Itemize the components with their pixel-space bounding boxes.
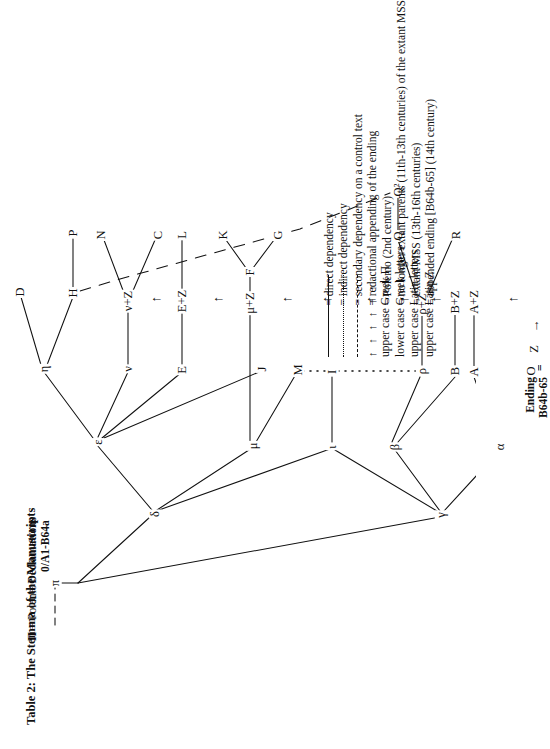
legend-row: = indirect dependency xyxy=(337,0,352,357)
legend-text: indirect dependency xyxy=(337,0,352,296)
node-L: L xyxy=(176,230,189,241)
archetype-label-line2: 0/A1-B64a xyxy=(39,520,52,572)
legend-eq: = xyxy=(351,296,366,308)
node-J: J xyxy=(256,365,269,373)
legend-text: Polemo (2nd century) xyxy=(380,0,395,296)
legend-eq: = xyxy=(322,296,337,308)
node-F: F xyxy=(244,267,257,277)
legend-text: redactional appending of the ending xyxy=(366,0,381,296)
node-A: A xyxy=(468,366,481,378)
legend-symbol-word: upper case Latin letters xyxy=(409,308,424,357)
edge-delta-iota xyxy=(159,449,330,510)
ending-label-line2: B64b-65 xyxy=(537,377,549,418)
edge-pi-delta xyxy=(78,517,150,583)
archetype-symbol: π xyxy=(26,596,38,602)
archetype-label-line1: Declamations xyxy=(26,517,38,583)
node-D: D xyxy=(14,286,27,298)
edge-eta-H xyxy=(47,297,73,365)
legend: = direct dependency = indirect dependenc… xyxy=(322,0,438,357)
edge-F-K xyxy=(226,240,246,268)
node-Z: Z xyxy=(528,344,541,355)
node-H: H xyxy=(67,287,80,299)
polemo-symbol: Π xyxy=(26,632,38,641)
node-nuZ: ν+Z xyxy=(122,289,135,312)
legend-symbol-arrows: ↑ ↑ ↑ ↑ ↑ ↑ xyxy=(366,308,381,357)
node-mu: μ xyxy=(247,441,260,451)
node-R: R xyxy=(450,229,463,240)
legend-symbol-label: upper case Latin letters xyxy=(408,271,420,357)
edge-epsilon-nu xyxy=(98,372,128,437)
ending-label: Ending B64b-65 xyxy=(524,377,550,418)
legend-symbol-word: lower case Greek letters xyxy=(395,308,410,357)
edge-gamma-alpha xyxy=(444,450,476,511)
legend-arrow-glyphs: ↑ ↑ ↑ ↑ ↑ ↑ xyxy=(366,275,378,357)
node-pi: π xyxy=(49,578,62,587)
node-alpha: α xyxy=(494,442,507,452)
node-delta: δ xyxy=(149,510,162,519)
legend-symbol-solid xyxy=(322,308,337,357)
edge-epsilon-E xyxy=(102,372,182,438)
polemo-eq: = xyxy=(26,623,38,630)
arrow-AZ-up: → xyxy=(506,295,522,308)
legend-row: upper case Latin Z = appended ending [B6… xyxy=(424,0,439,357)
node-gamma: γ xyxy=(435,511,448,520)
legend-row: upper case Latin letters = extant MSS (1… xyxy=(409,0,424,357)
node-nu: ν xyxy=(122,365,135,374)
edge-nuZ-N xyxy=(104,240,124,293)
edge-mu-M xyxy=(256,374,296,442)
legend-symbol-label: upper case Latin Z xyxy=(423,271,435,357)
arrow-chain-3: → xyxy=(280,295,296,308)
node-beta: β xyxy=(389,442,402,451)
arrow-EZ-up: → xyxy=(149,295,165,308)
node-G: G xyxy=(272,229,285,241)
edge-gamma-beta xyxy=(395,450,440,511)
legend-symbol-dashed xyxy=(351,308,366,357)
legend-row: = secondary dependency on a control text xyxy=(351,0,366,357)
node-P: P xyxy=(67,228,80,238)
node-BZ: B+Z xyxy=(449,289,462,315)
node-E: E xyxy=(176,365,189,376)
edge-nuZ-C xyxy=(132,240,155,293)
legend-symbol-word: upper case Greek Π xyxy=(380,308,395,357)
arrow-Z-to-AZ: → xyxy=(528,318,541,334)
edge-delta-mu xyxy=(157,448,252,510)
legend-row: upper case Greek Π = Polemo (2nd century… xyxy=(380,0,395,357)
ending-label-line1: Ending xyxy=(524,377,536,413)
node-N: N xyxy=(95,229,108,241)
legend-row: ↑ ↑ ↑ ↑ ↑ ↑ = redactional appending of t… xyxy=(366,0,381,357)
edge-pi-gamma xyxy=(78,517,440,583)
legend-row: lower case Greek letters = no longer ext… xyxy=(395,0,410,357)
node-eta: η xyxy=(38,364,51,374)
legend-symbol-label: lower case Greek letters xyxy=(394,271,406,357)
legend-row: = direct dependency xyxy=(322,0,337,357)
node-rho: ρ xyxy=(416,366,429,375)
legend-text: appended ending [B64b-65] (14th century) xyxy=(424,0,439,296)
node-I: I xyxy=(326,368,339,375)
node-EZ: E+Z xyxy=(176,288,189,313)
node-epsilon: ε xyxy=(92,438,105,446)
arrow-muZ-up: → xyxy=(211,295,227,308)
legend-symbol-dotted xyxy=(337,308,352,357)
edge-epsilon-J xyxy=(104,372,259,438)
edge-eta-D xyxy=(21,297,41,365)
legend-text: secondary dependency on a control text xyxy=(351,0,366,296)
legend-text: direct dependency xyxy=(322,0,337,296)
edge-alpha-A xyxy=(474,377,476,442)
legend-eq: = xyxy=(337,296,352,308)
node-O: O xyxy=(525,365,538,377)
node-C: C xyxy=(152,229,165,240)
archetype-eq: = xyxy=(26,586,38,593)
node-iota: ι xyxy=(326,444,339,450)
node-B: B xyxy=(449,365,462,376)
edge-delta-epsilon xyxy=(97,445,152,510)
node-muZ: μ+Z xyxy=(244,291,257,315)
edge-epsilon-eta xyxy=(44,372,93,438)
node-AZ: A+Z xyxy=(468,289,481,316)
edge-gamma-iota xyxy=(335,450,437,511)
node-M: M xyxy=(292,363,305,377)
legend-symbol-label: upper case Greek Π xyxy=(379,271,391,357)
archetype-annotation: π = Declamations 0/A1-B64a xyxy=(26,517,53,602)
edge-F-G xyxy=(253,240,274,268)
